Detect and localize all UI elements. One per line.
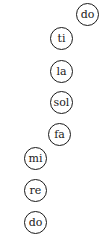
- note-ti: ti: [50, 27, 73, 50]
- note-mi: mi: [24, 147, 47, 170]
- note-la: la: [50, 60, 73, 83]
- note-do-high: do: [76, 3, 99, 26]
- note-fa: fa: [48, 123, 71, 146]
- note-sol: sol: [50, 91, 73, 114]
- note-do-low: do: [24, 211, 47, 234]
- note-re: re: [24, 179, 47, 202]
